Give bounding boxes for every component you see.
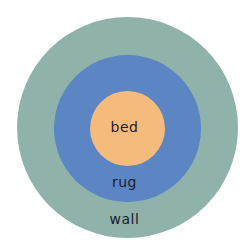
wall-label: wall	[0, 211, 249, 227]
rug-label: rug	[0, 174, 249, 190]
bed-label: bed	[0, 119, 249, 135]
